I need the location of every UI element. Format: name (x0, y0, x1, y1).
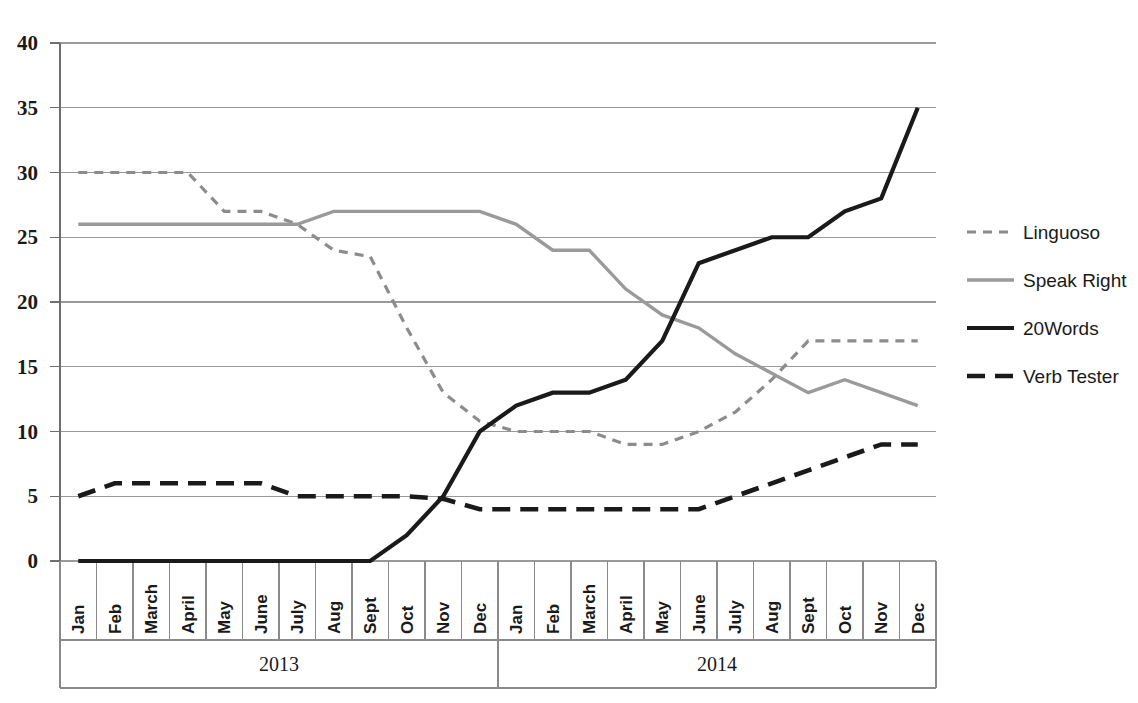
legend-label-speak-right: Speak Right (1023, 270, 1127, 291)
x-axis-month-label: Oct (836, 605, 855, 634)
x-axis-month-label: Feb (106, 604, 125, 634)
x-axis-month-label: Sept (799, 597, 818, 634)
x-axis-month-label: June (252, 594, 271, 634)
y-axis-tick-label: 40 (17, 31, 38, 55)
x-axis-month-label: Aug (763, 601, 782, 634)
line-chart: 0510152025303540 JanFebMarchAprilMayJune… (0, 0, 1138, 703)
x-axis-month-label: Sept (361, 597, 380, 634)
x-axis-month-label: Jan (69, 605, 88, 634)
x-axis-year-label: 2014 (697, 653, 737, 675)
data-series-group (78, 108, 918, 561)
x-axis-month-label: May (653, 600, 672, 634)
series-line-speak-right (78, 211, 918, 405)
x-axis-month-label: July (288, 599, 307, 634)
x-axis-month-label: Feb (544, 604, 563, 634)
x-axis-month-label: April (179, 595, 198, 634)
x-axis-month-label: July (726, 599, 745, 634)
y-axis-tick-label: 5 (28, 484, 39, 508)
y-axis-tick-labels: 0510152025303540 (17, 31, 60, 573)
legend-label-20words: 20Words (1023, 318, 1099, 339)
y-axis-tick-label: 20 (17, 290, 38, 314)
y-axis-tick-label: 10 (17, 420, 38, 444)
x-axis-month-label: Nov (872, 601, 891, 634)
x-axis-month-label: Oct (398, 605, 417, 634)
y-axis-tick-label: 0 (28, 549, 39, 573)
chart-legend: LinguosoSpeak Right20WordsVerb Tester (967, 222, 1127, 387)
y-axis-tick-label: 30 (17, 161, 38, 185)
x-axis-year-label: 2013 (259, 653, 299, 675)
chart-canvas: 0510152025303540 JanFebMarchAprilMayJune… (0, 0, 1138, 703)
y-axis-tick-label: 25 (17, 225, 38, 249)
y-axis-tick-label: 35 (17, 96, 38, 120)
y-axis-tick-label: 15 (17, 355, 38, 379)
x-axis-month-label: June (690, 594, 709, 634)
x-axis-month-label: Dec (909, 603, 928, 634)
x-axis-month-label: March (580, 584, 599, 634)
series-line-verb-tester (78, 444, 918, 509)
x-axis-month-label: Aug (325, 601, 344, 634)
x-axis-month-label: April (617, 595, 636, 634)
x-axis-month-label: Nov (434, 601, 453, 634)
legend-label-verb-tester: Verb Tester (1023, 366, 1119, 387)
x-axis-month-label: March (142, 584, 161, 634)
x-axis-month-label: Dec (471, 603, 490, 634)
series-line-20words (78, 108, 918, 561)
legend-label-linguoso: Linguoso (1023, 222, 1100, 243)
series-line-linguoso (78, 173, 918, 445)
x-axis-month-label: May (215, 600, 234, 634)
x-axis-month-label: Jan (507, 605, 526, 634)
